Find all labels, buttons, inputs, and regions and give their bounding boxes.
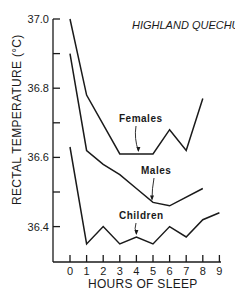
annotation-children: Children — [119, 210, 164, 221]
y-tick-label: 36.6 — [28, 151, 49, 163]
annotation-females: Females — [119, 113, 163, 124]
series-annotations: FemalesMalesChildren — [119, 113, 171, 235]
x-tick-label: 0 — [67, 265, 73, 277]
y-axis-title: RECTAL TEMPERATURE (°C) — [10, 34, 24, 205]
series-line-females — [70, 19, 203, 154]
x-tick-label: 3 — [117, 265, 123, 277]
line-chart: HIGHLAND QUECHUA RECTAL TEMPERATURE (°C)… — [0, 0, 235, 302]
x-tick-label: 9 — [216, 265, 222, 277]
x-ticks: 0123456789 — [67, 255, 223, 277]
x-tick-label: 7 — [183, 265, 189, 277]
x-tick-label: 8 — [200, 265, 206, 277]
y-tick-label: 36.8 — [28, 82, 49, 94]
x-axis-title: HOURS OF SLEEP — [88, 277, 198, 291]
x-tick-label: 6 — [167, 265, 173, 277]
x-tick-label: 4 — [133, 265, 139, 277]
chart-title: HIGHLAND QUECHUA — [132, 19, 235, 31]
arrowhead-icon — [136, 147, 140, 152]
y-tick-label: 36.4 — [28, 221, 49, 233]
y-ticks: 36.436.636.837.0 — [28, 13, 60, 233]
x-tick-label: 2 — [100, 265, 106, 277]
x-tick-label: 1 — [84, 265, 90, 277]
x-tick-label: 5 — [150, 265, 156, 277]
annotation-males: Males — [141, 165, 171, 176]
arrowhead-icon — [134, 230, 138, 235]
y-tick-label: 37.0 — [28, 13, 49, 25]
series-line-males — [70, 54, 203, 206]
